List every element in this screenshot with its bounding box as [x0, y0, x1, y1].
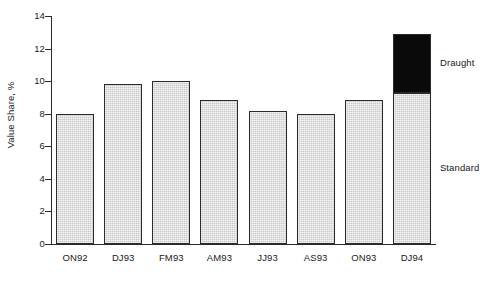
legend-label-standard: Standard	[440, 163, 479, 173]
x-tick-label: DJ94	[382, 253, 442, 263]
y-tick-mark	[45, 114, 51, 115]
y-tick-mark	[45, 244, 51, 245]
bar-segment-standard[interactable]	[345, 100, 383, 244]
bar-group[interactable]	[56, 16, 94, 244]
y-tick-label: 4	[11, 174, 45, 184]
y-tick-mark	[45, 81, 51, 82]
y-tick-label-wrap: 2	[0, 206, 45, 216]
bar-segment-standard[interactable]	[152, 81, 190, 244]
y-tick-mark	[45, 16, 51, 17]
y-tick-label: 6	[11, 141, 45, 151]
y-tick-mark	[45, 49, 51, 50]
y-tick-label-wrap: 8	[0, 109, 45, 119]
bar-segment-standard[interactable]	[249, 111, 287, 244]
bar-group[interactable]	[152, 16, 190, 244]
x-axis-line	[51, 244, 436, 245]
y-tick-mark	[45, 211, 51, 212]
y-tick-label: 10	[11, 76, 45, 86]
y-tick-label-wrap: 0	[0, 239, 45, 249]
y-axis-line	[51, 16, 52, 245]
y-tick-label-wrap: 12	[0, 44, 45, 54]
bar-segment-draught[interactable]	[393, 34, 431, 93]
y-tick-label-wrap: 4	[0, 174, 45, 184]
bar-segment-standard[interactable]	[297, 114, 335, 244]
y-tick-label: 0	[11, 239, 45, 249]
legend-label-draught: Draught	[440, 58, 475, 68]
bar-group[interactable]	[345, 16, 383, 244]
y-tick-label-wrap: 6	[0, 141, 45, 151]
y-tick-label: 12	[11, 44, 45, 54]
y-tick-mark	[45, 146, 51, 147]
y-tick-label-wrap: 10	[0, 76, 45, 86]
bar-group[interactable]	[297, 16, 335, 244]
bar-chart: Value Share, % 02468101214 ON92DJ93FM93A…	[0, 0, 481, 289]
bar-group[interactable]	[200, 16, 238, 244]
bar-segment-standard[interactable]	[104, 84, 142, 244]
bar-segment-standard[interactable]	[56, 114, 94, 244]
y-tick-label: 8	[11, 109, 45, 119]
bar-segment-standard[interactable]	[200, 100, 238, 244]
bar-group[interactable]	[104, 16, 142, 244]
y-tick-mark	[45, 179, 51, 180]
y-tick-label-wrap: 14	[0, 11, 45, 21]
y-tick-label: 14	[11, 11, 45, 21]
bar-segment-standard[interactable]	[393, 93, 431, 244]
bar-group[interactable]	[249, 16, 287, 244]
bar-group[interactable]	[393, 16, 431, 244]
y-tick-label: 2	[11, 206, 45, 216]
